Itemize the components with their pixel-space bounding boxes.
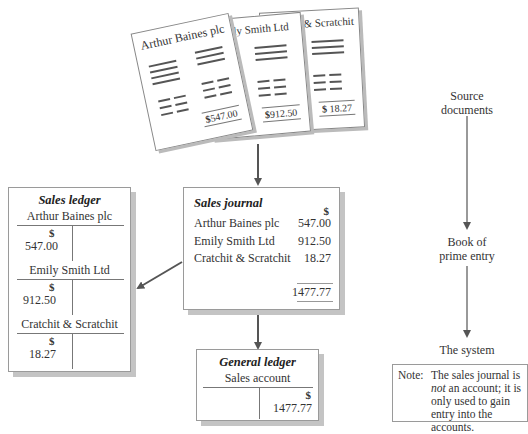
note-label: Note:	[398, 369, 424, 382]
flow-step-the-system: The system	[422, 343, 512, 357]
ledger-debit-amount: 912.50	[23, 293, 56, 308]
sales-ledger-title: Sales ledger	[9, 193, 130, 208]
journal-row-name: Emily Smith Ltd	[194, 234, 275, 249]
general-ledger: General ledger Sales account $ 1477.77	[196, 349, 319, 421]
ledger-currency: $	[49, 281, 55, 293]
sales-journal-title: Sales journal	[194, 196, 262, 211]
sales-ledger: Sales ledger Arthur Baines plc $ 547.00 …	[8, 187, 131, 372]
note-box: Note: The sales journal is not an accoun…	[392, 364, 528, 422]
document-amount: $912.50	[261, 104, 301, 122]
ledger-account-name: Cratchit & Scratchit	[9, 317, 130, 332]
flow-step-book-of-prime-entry: Book of prime entry	[422, 235, 512, 263]
ledger-currency: $	[49, 335, 55, 347]
general-ledger-currency: $	[306, 389, 312, 401]
flow-step-source-documents: Source documents	[427, 89, 507, 117]
journal-row-amount: 547.00	[298, 216, 331, 231]
arrow-journal-to-sales-ledger	[138, 262, 182, 288]
document-amount: $ 18.27	[319, 100, 356, 117]
sales-journal: Sales journal $ Arthur Baines plc 547.00…	[183, 187, 340, 310]
note-text: The sales journal is not an account; it …	[431, 369, 527, 434]
journal-row-name: Cratchit & Scratchit	[194, 251, 291, 266]
general-ledger-title: General ledger	[197, 355, 318, 370]
journal-row-amount: 18.27	[304, 251, 331, 266]
general-ledger-account: Sales account	[197, 371, 318, 386]
document-amount: $547.00	[201, 105, 242, 128]
journal-total: 1477.77	[292, 285, 331, 300]
general-ledger-credit: 1477.77	[273, 401, 312, 416]
journal-row-amount: 912.50	[298, 234, 331, 249]
ledger-account-name: Arthur Baines plc	[9, 209, 130, 224]
journal-row-name: Arthur Baines plc	[194, 216, 279, 231]
ledger-debit-amount: 18.27	[29, 347, 56, 362]
ledger-debit-amount: 547.00	[25, 239, 58, 254]
ledger-account-name: Emily Smith Ltd	[9, 263, 130, 278]
ledger-currency: $	[49, 227, 55, 239]
